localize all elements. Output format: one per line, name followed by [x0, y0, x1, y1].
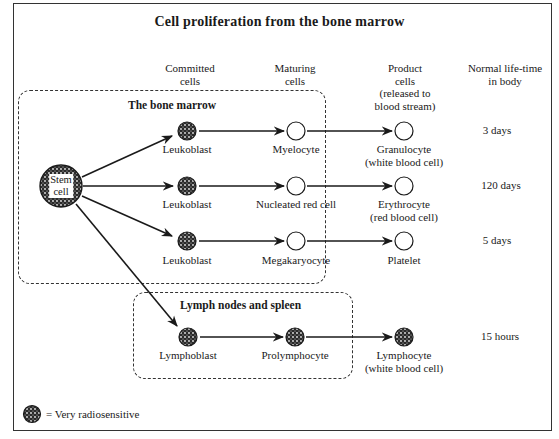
legend-text: = Very radiosensitive: [46, 408, 139, 420]
flow-arrows: [0, 0, 559, 439]
lymphocyte-icon: [395, 328, 413, 346]
erythrocyte-icon: [395, 177, 413, 195]
row1-committed-label: Leukoblast: [163, 143, 212, 156]
row3-committed-label: Leukoblast: [163, 254, 212, 267]
megakaryocyte-icon: [287, 232, 305, 250]
stippled-cell-icon: [22, 404, 42, 424]
row3-product-label: Platelet: [388, 254, 421, 267]
row1-product-label: Granulocyte (white blood cell): [365, 143, 443, 168]
stem-cell-label: Stem cell: [49, 174, 73, 198]
row1-lifetime: 3 days: [483, 124, 511, 136]
row1-maturing-label: Myelocyte: [272, 143, 319, 156]
row2-committed-label: Leukoblast: [163, 198, 212, 211]
row3-maturing-label: Megakaryocyte: [262, 254, 330, 267]
nucleated-red-cell-icon: [287, 177, 305, 195]
row4-committed-label: Lymphoblast: [159, 349, 216, 362]
row4-maturing-label: Prolymphocyte: [261, 349, 328, 362]
leukoblast-2-icon: [178, 177, 196, 195]
row3-lifetime: 5 days: [483, 234, 511, 246]
lymphoblast-icon: [179, 328, 197, 346]
row2-maturing-label: Nucleated red cell: [256, 198, 336, 211]
myelocyte-icon: [287, 122, 305, 140]
row2-product-label: Erythrocyte (red blood cell): [370, 198, 438, 223]
row2-lifetime: 120 days: [481, 179, 520, 191]
row4-product-label: Lymphocyte (white blood cell): [365, 349, 443, 374]
leukoblast-3-icon: [178, 232, 196, 250]
leukoblast-1-icon: [178, 122, 196, 140]
granulocyte-icon: [395, 122, 413, 140]
prolymphocyte-icon: [286, 328, 304, 346]
row4-lifetime: 15 hours: [481, 330, 519, 342]
platelet-icon: [395, 232, 413, 250]
legend: = Very radiosensitive: [22, 404, 139, 424]
